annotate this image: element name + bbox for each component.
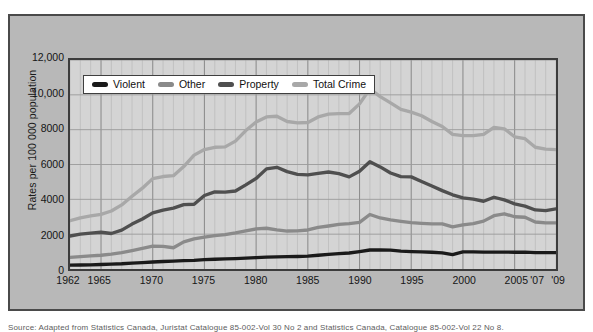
figure-caption-strip: Source: Adapted from Statistics Canada, … — [0, 318, 593, 332]
y-tick-label: 2000 — [16, 230, 64, 241]
figure-caption: Source: Adapted from Statistics Canada, … — [8, 323, 504, 332]
y-tick-label: 6000 — [16, 159, 64, 170]
y-tick-label: 12,000 — [16, 52, 64, 63]
legend-swatch-icon — [158, 82, 174, 87]
legend-label: Property — [239, 79, 279, 90]
legend-label: Other — [179, 79, 205, 90]
legend-swatch-icon — [218, 82, 234, 87]
legend-item-other[interactable]: Other — [158, 79, 205, 90]
legend-label: Violent — [113, 79, 145, 90]
x-tick-label: 1980 — [244, 275, 267, 286]
y-axis-tick-labels: 0200040006000800010,00012,000 — [12, 58, 64, 271]
x-tick-label: 1990 — [348, 275, 371, 286]
x-tick-label: 1970 — [140, 275, 163, 286]
x-tick-label: 2005 — [505, 275, 528, 286]
x-tick-label: 1995 — [400, 275, 423, 286]
x-tick-label: 1985 — [296, 275, 319, 286]
x-tick-label: '09 — [551, 275, 565, 286]
series-line-violent — [70, 250, 556, 265]
legend-swatch-icon — [292, 82, 308, 87]
y-tick-label: 8000 — [16, 123, 64, 134]
legend-label: Total Crime — [313, 79, 366, 90]
x-tick-label: 1962 — [56, 275, 79, 286]
y-tick-label: 10,000 — [16, 88, 64, 99]
x-axis-tick-labels: 1962196519701975198019851990199520002005… — [68, 275, 560, 291]
y-tick-label: 4000 — [16, 194, 64, 205]
legend-swatch-icon — [92, 82, 108, 87]
x-tick-label: 1975 — [192, 275, 215, 286]
x-tick-label: 1965 — [88, 275, 111, 286]
legend-item-total-crime[interactable]: Total Crime — [292, 79, 366, 90]
legend-item-violent[interactable]: Violent — [92, 79, 145, 90]
x-tick-label: '07 — [530, 275, 544, 286]
chart-legend: ViolentOtherPropertyTotal Crime — [83, 75, 375, 94]
legend-item-property[interactable]: Property — [218, 79, 279, 90]
series-line-property — [70, 162, 556, 236]
chart-figure-panel: Rates per 100 000 population 02000400060… — [8, 14, 585, 311]
x-tick-label: 2000 — [452, 275, 475, 286]
